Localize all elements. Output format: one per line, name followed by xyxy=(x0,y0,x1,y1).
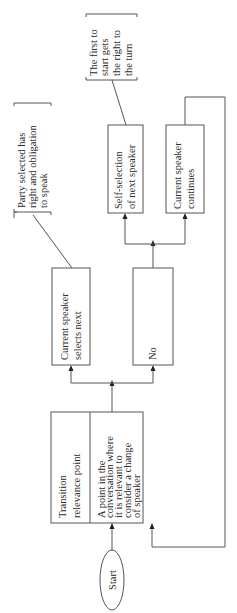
current-continues-line-2: continues xyxy=(185,169,196,209)
arrowhead-icon xyxy=(110,523,115,529)
callout-first-line-2: start gets xyxy=(99,38,110,76)
callout-party-line-2: right and obligation xyxy=(27,124,38,208)
self-selection-line-2: of next speaker xyxy=(126,144,137,209)
callout-first-line-1: The first to xyxy=(88,29,99,76)
callout-leader-line xyxy=(33,215,72,268)
arrowhead-icon xyxy=(123,213,128,219)
callout-party-line-1: Party selected has xyxy=(16,133,27,208)
callout-party-line-3: to speak xyxy=(38,173,49,208)
connector-no-branch xyxy=(123,213,188,268)
arrowhead-icon xyxy=(151,365,156,371)
arrowhead-icon xyxy=(151,240,156,246)
current-continues-line-1: Current speaker xyxy=(172,142,183,209)
current-continues-box: Current speaker continues xyxy=(166,125,204,213)
bracket-top xyxy=(14,212,17,218)
arrowhead-icon xyxy=(150,523,155,529)
arrowhead-icon xyxy=(183,213,188,219)
current-selects-line-1: Current speaker xyxy=(59,293,70,360)
transition-title-line-1: Transition xyxy=(57,474,68,518)
callout-first-line-3: the right to xyxy=(111,30,122,76)
self-selection-line-1: Self-selection xyxy=(113,151,124,209)
callout-party-selected: Party selected has right and obligation … xyxy=(14,103,72,268)
start-node: Start xyxy=(100,550,124,610)
current-selects-line-2: selects next xyxy=(72,311,83,360)
transition-desc-line-5: of speaker xyxy=(131,474,142,518)
transition-title-line-2: relevance point xyxy=(71,453,82,518)
no-box: No xyxy=(133,268,173,365)
no-label: No xyxy=(147,347,158,360)
current-selects-box: Current speaker selects next xyxy=(52,268,90,365)
callout-first-to-start: The first to start gets the right to the… xyxy=(86,14,137,125)
start-label: Start xyxy=(107,570,118,590)
transition-relevance-box: Transition relevance point A point in th… xyxy=(51,412,143,523)
connector-transition-branch xyxy=(69,365,156,412)
callout-first-line-4: the turn xyxy=(123,43,134,76)
turn-taking-flowchart: Start Transition relevance point A point… xyxy=(0,0,237,613)
self-selection-box: Self-selection of next speaker xyxy=(108,125,143,213)
bracket-bottom-edge xyxy=(14,212,51,215)
arrowhead-icon xyxy=(69,365,74,371)
callout-leader-line xyxy=(112,80,126,125)
current-selects-frame xyxy=(52,268,90,365)
